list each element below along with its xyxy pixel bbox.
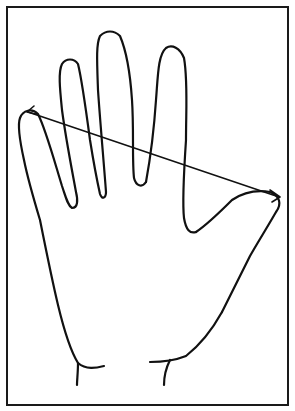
frame-border <box>7 7 288 405</box>
ring-finger-outline <box>60 60 106 198</box>
index-finger-outline <box>146 46 196 232</box>
diagram-svg <box>0 0 295 411</box>
wrist-right-line <box>164 360 170 385</box>
palm-left-edge <box>40 220 104 368</box>
hand-span-diagram <box>0 0 295 411</box>
little-finger-outline <box>19 111 77 220</box>
palm-right-edge <box>150 312 222 362</box>
middle-finger-outline <box>97 32 146 193</box>
wrist-left-line <box>77 363 78 385</box>
thumb-outline <box>196 191 279 312</box>
